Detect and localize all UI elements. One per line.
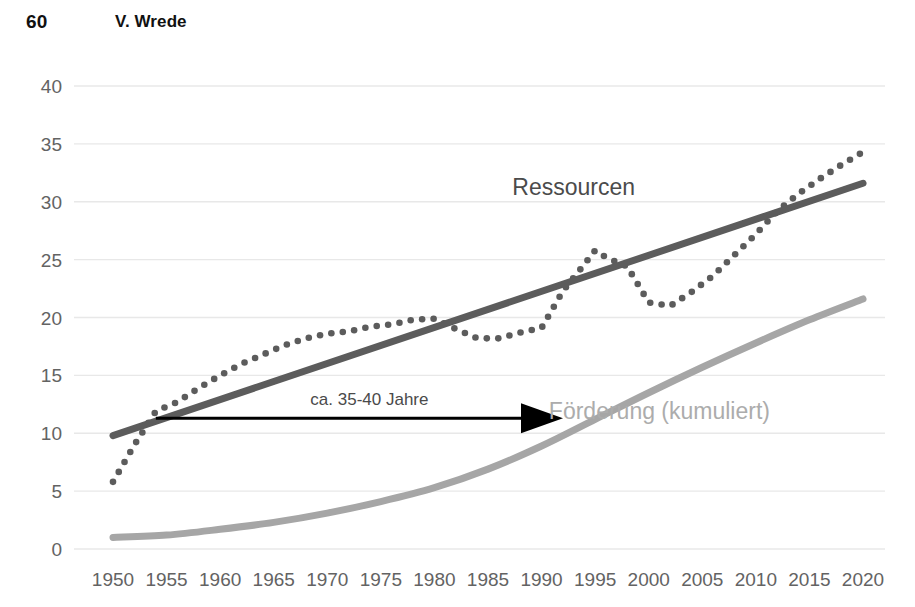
y-tick-label: 40 [41,76,62,97]
data-point-dot [679,295,686,302]
data-point-dot [221,370,228,377]
data-point-dot [273,346,280,353]
data-point-dot [857,151,864,158]
x-tick-label: 1990 [520,569,562,590]
data-point-dot [748,235,755,242]
x-tick-label: 1960 [199,569,241,590]
header-author: V. Wrede [115,12,187,32]
data-point-dot [451,325,458,332]
page-root: 60 V. Wrede 0510152025303540 19501955196… [0,0,915,607]
data-point-dot [419,316,426,323]
data-point-dot [339,329,346,336]
data-point-dot [629,271,636,278]
series-label-ressourcen: Ressourcen [512,174,635,200]
data-point-dot [577,266,584,273]
data-point-dot [528,327,535,334]
data-point-dot [121,459,128,466]
data-point-dot [847,156,854,163]
data-point-dot [462,330,469,337]
data-point-dot [241,359,248,366]
y-tick-label: 20 [41,308,62,329]
data-point-dot [724,259,731,266]
data-point-dot [732,251,739,258]
data-point-dot [545,313,552,320]
annotation-label: ca. 35-40 Jahre [310,390,428,409]
data-point-dot [634,281,641,288]
data-point-dot [472,334,479,341]
x-tick-label: 2005 [681,569,723,590]
data-point-dot [495,335,502,342]
data-point-dot [133,439,140,446]
data-point-dot [837,162,844,169]
data-point-dot [707,275,714,282]
data-point-dot [506,332,513,339]
data-point-dot [127,449,134,456]
y-tick-label: 5 [51,481,62,502]
x-tick-label: 1995 [574,569,616,590]
x-tick-label: 1950 [92,569,134,590]
data-point-dot [601,253,608,260]
data-point-dot [584,257,591,264]
data-point-dot [115,469,122,476]
x-tick-label: 2020 [842,569,884,590]
y-tick-label: 35 [41,134,62,155]
x-axis-tick-labels: 1950195519601965197019751980198519901995… [92,569,884,590]
data-point-dot [172,400,179,407]
data-point-dot [539,323,546,330]
data-point-dot [351,327,358,334]
x-tick-label: 1955 [145,569,187,590]
page-number: 60 [26,11,48,33]
data-point-dot [756,227,763,234]
x-tick-label: 2000 [628,569,670,590]
resource-production-line-chart: 0510152025303540 19501955196019651970197… [0,52,915,607]
running-header: 60 V. Wrede [0,0,915,52]
data-point-dot [669,301,676,308]
data-point-dot [328,330,335,337]
data-point-dot [262,350,269,357]
data-point-dot [231,364,238,371]
data-point-dot [305,334,312,341]
data-point-dot [284,341,291,348]
y-tick-label: 30 [41,192,62,213]
data-point-dot [827,169,834,176]
series-label-foerderung: Förderung (kumuliert) [549,398,770,424]
annotation-arrow-group: ca. 35-40 Jahre [156,390,563,433]
data-point-dot [151,410,158,417]
x-tick-label: 1975 [360,569,402,590]
y-tick-label: 25 [41,250,62,271]
data-point-dot [191,388,198,395]
x-tick-label: 2015 [788,569,830,590]
data-point-dot [658,301,665,308]
data-point-dot [790,195,797,202]
x-tick-label: 1985 [467,569,509,590]
data-point-dot [483,335,490,342]
data-point-dot [647,299,654,306]
data-point-dot [396,319,403,326]
data-point-dot [385,322,392,329]
y-tick-label: 0 [51,539,62,560]
data-point-dot [689,289,696,296]
data-point-dot [818,175,825,182]
data-point-dot [317,332,324,339]
y-tick-label: 10 [41,423,62,444]
data-point-dot [161,404,168,411]
y-tick-label: 15 [41,365,62,386]
data-point-dot [740,243,747,250]
data-point-dot [808,181,815,188]
data-point-dot [407,317,414,324]
grid-lines [74,86,885,549]
data-point-dot [640,291,647,298]
data-point-dot [551,303,558,310]
data-point-dot [201,381,208,388]
data-point-dot [799,188,806,195]
x-tick-label: 1965 [253,569,295,590]
x-tick-label: 1980 [413,569,455,590]
x-tick-label: 2010 [735,569,777,590]
data-point-dot [517,329,524,336]
data-point-dot [252,355,259,362]
x-tick-label: 1970 [306,569,348,590]
data-point-dot [294,338,301,345]
data-point-dot [362,324,369,331]
data-point-dot [211,376,218,383]
series-inline-labels: Ressourcen Förderung (kumuliert) [512,174,770,425]
